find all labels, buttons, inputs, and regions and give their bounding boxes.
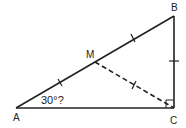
angle-label-a: 30°? bbox=[41, 94, 64, 106]
label-a: A bbox=[13, 112, 20, 123]
triangle-diagram: A B C M 30°? bbox=[0, 0, 186, 128]
label-c: C bbox=[170, 115, 177, 126]
label-m: M bbox=[86, 49, 94, 60]
tick-mc bbox=[132, 81, 136, 89]
label-b: B bbox=[171, 2, 178, 13]
